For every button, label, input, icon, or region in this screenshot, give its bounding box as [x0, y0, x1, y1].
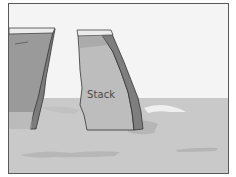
stack-label: Stack — [87, 89, 115, 100]
sea-stack-cap — [77, 30, 113, 36]
mainland-cliff-base — [9, 112, 33, 129]
coastal-stack-diagram — [0, 0, 236, 177]
mainland-cliff-cap — [9, 28, 55, 34]
